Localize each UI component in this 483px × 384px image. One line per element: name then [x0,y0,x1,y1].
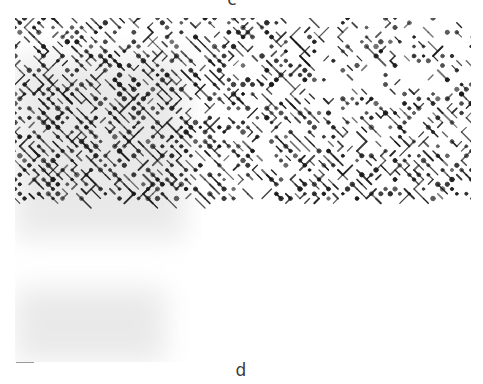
panel-label-d: d [236,362,247,379]
lattice-micrograph [15,18,471,362]
panel-label-c: c [227,0,236,8]
lattice-pattern [15,18,471,362]
scale-mark [16,362,34,363]
